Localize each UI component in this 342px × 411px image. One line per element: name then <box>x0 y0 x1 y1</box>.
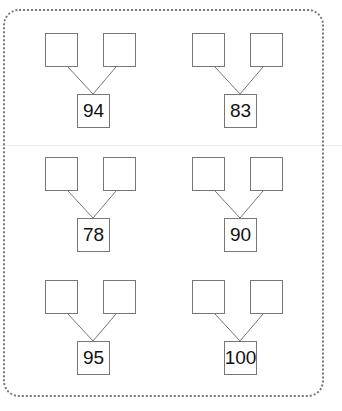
part-b-box[interactable] <box>250 157 283 191</box>
total-box: 94 <box>77 94 110 128</box>
total-box: 78 <box>77 218 110 252</box>
part-b-box[interactable] <box>103 157 136 191</box>
part-b-box[interactable] <box>103 280 136 314</box>
part-a-box[interactable] <box>45 280 78 314</box>
part-a-box[interactable] <box>45 157 78 191</box>
number-bond-1: 94 <box>45 33 145 133</box>
total-box: 100 <box>224 341 257 375</box>
part-a-box[interactable] <box>192 280 225 314</box>
number-bond-5: 95 <box>45 280 145 380</box>
number-bond-2: 83 <box>192 33 292 133</box>
total-box: 90 <box>224 218 257 252</box>
part-b-box[interactable] <box>250 33 283 67</box>
number-bond-4: 90 <box>192 157 292 257</box>
total-box: 95 <box>77 341 110 375</box>
part-b-box[interactable] <box>103 33 136 67</box>
part-a-box[interactable] <box>45 33 78 67</box>
part-a-box[interactable] <box>192 33 225 67</box>
total-box: 83 <box>224 94 257 128</box>
part-a-box[interactable] <box>192 157 225 191</box>
part-b-box[interactable] <box>250 280 283 314</box>
number-bond-3: 78 <box>45 157 145 257</box>
number-bond-6: 100 <box>192 280 292 380</box>
